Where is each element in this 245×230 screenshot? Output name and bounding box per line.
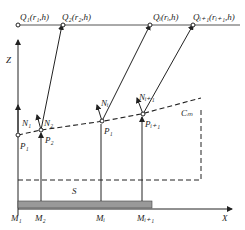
- point-q2: [61, 23, 65, 27]
- ray-p2-q2: [41, 25, 62, 130]
- label-qi1: Qᵢ₊₁(rᵢ₊₁,h): [193, 12, 235, 22]
- point-p1: [16, 133, 20, 137]
- region-s-label: S: [72, 186, 77, 196]
- base-plate: [18, 201, 152, 208]
- label-q2: Q₂(r₂,h): [62, 12, 91, 22]
- label-ni1: Nᵢ₊₁: [138, 92, 155, 102]
- label-m1: M₁: [10, 213, 22, 223]
- point-pi: [100, 119, 104, 123]
- point-qi: [148, 23, 152, 27]
- point-q1: [16, 23, 20, 27]
- label-n2: N₂: [43, 118, 53, 128]
- label-qi: Qᵢ(rᵢ,h): [153, 12, 179, 22]
- label-n1: N₁: [21, 118, 31, 128]
- ray-pi-qi: [102, 25, 150, 121]
- x-axis-label: X: [221, 213, 228, 223]
- label-q1: Q₁(r₁,h): [20, 12, 49, 22]
- point-pi1: [141, 112, 145, 116]
- label-pi: P₁: [103, 126, 113, 136]
- label-m2: M₂: [34, 213, 46, 223]
- label-ni: Nᵢ: [100, 98, 109, 108]
- point-p2: [39, 128, 43, 132]
- z-axis-label: Z: [6, 55, 12, 65]
- label-pi1: Pᵢ₊₁: [144, 119, 160, 129]
- label-mi: Mᵢ: [95, 213, 105, 223]
- label-p2: P₂: [44, 135, 54, 145]
- point-qi1: [191, 23, 195, 27]
- diagram-canvas: Z X S Cₘ Q₁(r₁,h) Q₂(r₂,h) Qᵢ(rᵢ,h) Qᵢ₊₁…: [0, 0, 245, 230]
- label-p1: P₁: [19, 141, 29, 151]
- curve-cm-label: Cₘ: [181, 108, 193, 118]
- label-mi1: Mᵢ₊₁: [136, 213, 154, 223]
